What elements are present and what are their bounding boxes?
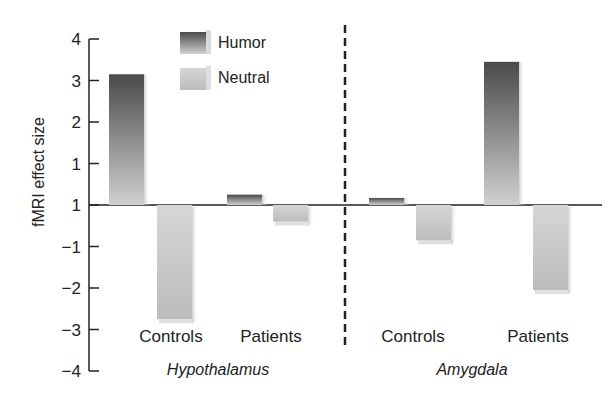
bar-shadow — [568, 207, 574, 292]
y-tick-label: 1 — [72, 196, 81, 215]
group-label-hypothalamus: Hypothalamus — [167, 361, 269, 378]
humor-swatch-icon — [180, 32, 206, 54]
y-axis-title: fMRI effect size — [30, 117, 47, 227]
bar-neutral-hypothalamus-controls — [157, 205, 192, 319]
category-label-amygdala-patients: Patients — [507, 327, 568, 346]
bar-humor-amygdala-controls — [369, 198, 404, 205]
category-label-hypothalamus-controls: Controls — [139, 327, 202, 346]
bar-neutral-hypothalamus-patients — [273, 205, 308, 222]
bar-shadow — [192, 207, 198, 321]
bar-shadow — [308, 207, 314, 224]
y-tick-label: −4 — [62, 362, 81, 381]
legend-item-neutral: Neutral — [180, 66, 270, 90]
neutral-swatch-icon — [180, 68, 206, 90]
y-tick-label: −3 — [62, 321, 81, 340]
bar-neutral-amygdala-patients — [533, 205, 568, 290]
bar-shadow — [144, 74, 150, 205]
y-tick-label: −1 — [62, 238, 81, 257]
category-label-hypothalamus-patients: Patients — [240, 327, 301, 346]
bar-humor-amygdala-patients — [484, 62, 519, 205]
bar-neutral-amygdala-controls — [416, 205, 451, 240]
y-tick-label: 3 — [72, 72, 81, 91]
y-tick-label: 2 — [72, 113, 81, 132]
bar-shadow — [519, 62, 525, 205]
y-tick-label: 1 — [72, 155, 81, 174]
legend-label-neutral: Neutral — [218, 69, 270, 86]
bar-shadow — [262, 195, 268, 205]
bar-shadow — [404, 198, 410, 205]
bars — [109, 62, 574, 323]
bar-humor-hypothalamus-controls — [109, 74, 144, 205]
legend: Humor Neutral — [180, 30, 270, 90]
legend-item-humor: Humor — [180, 30, 267, 54]
y-tick-label: 4 — [72, 30, 81, 49]
group-label-amygdala: Amygdala — [435, 361, 507, 378]
bar-shadow — [451, 207, 457, 242]
y-tick-label: −2 — [62, 279, 81, 298]
category-label-amygdala-controls: Controls — [381, 327, 444, 346]
bar-chart: fMRI effect size 43211−1−2−3−4 Humor Neu… — [0, 0, 616, 399]
legend-label-humor: Humor — [218, 34, 267, 51]
bar-humor-hypothalamus-patients — [227, 195, 262, 205]
